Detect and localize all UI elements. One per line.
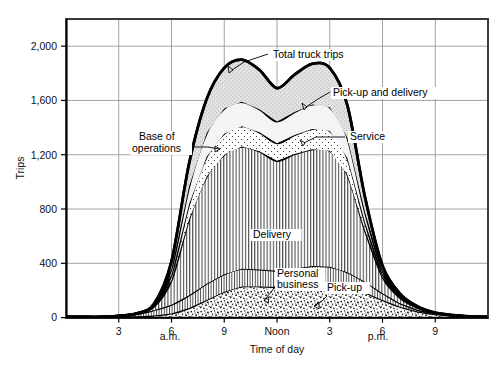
y-axis-ticks: 04008001,2001,6002,000	[31, 40, 66, 323]
period-label-pm: p.m.	[368, 330, 388, 342]
x-tick-label: 3	[327, 325, 333, 337]
x-tick-label: 9	[221, 325, 227, 337]
x-tick-label: Noon	[264, 325, 289, 337]
y-tick-label: 2,000	[31, 40, 57, 52]
annotation-label-operations: operations	[132, 142, 181, 154]
annotation-label-base-of: Base of	[139, 130, 175, 142]
period-label-am: a.m.	[160, 330, 180, 342]
annotation-label-pick-up-and-delivery: Pick-up and delivery	[333, 86, 428, 98]
trips-by-time-of-day-area-chart: 04008001,2001,6002,000 369Noon369 Trips …	[0, 0, 499, 367]
x-tick-label: 3	[116, 325, 122, 337]
y-tick-label: 400	[39, 257, 57, 269]
y-tick-label: 1,200	[31, 149, 57, 161]
y-tick-label: 0	[51, 311, 57, 323]
annotation-label-delivery: Delivery	[253, 228, 292, 240]
x-tick-label: 9	[432, 325, 438, 337]
annotation-label-total-truck-trips: Total truck trips	[273, 48, 344, 60]
annotation-label-service: Service	[350, 130, 385, 142]
y-axis-title: Trips	[14, 157, 26, 180]
y-tick-label: 1,600	[31, 94, 57, 106]
annotation-label-pick-up: Pick-up	[327, 281, 362, 293]
annotation-label-business: business	[277, 278, 318, 290]
x-axis-title: Time of day	[250, 343, 305, 355]
y-tick-label: 800	[39, 203, 57, 215]
chart-figure: 04008001,2001,6002,000 369Noon369 Trips …	[0, 0, 499, 367]
